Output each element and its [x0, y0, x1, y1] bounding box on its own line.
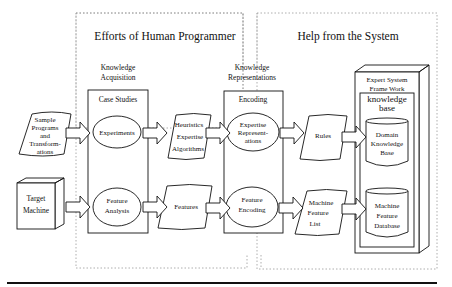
arrow-target-to-analysis: [66, 196, 90, 218]
machine-feature-list-document: Machine Feature List: [295, 190, 347, 236]
framework-label-l1: Expert System: [366, 76, 408, 84]
svg-text:Machine: Machine: [309, 199, 334, 207]
svg-text:Algorithms: Algorithms: [172, 145, 204, 153]
encoding-label: Encoding: [239, 95, 268, 104]
stage-representation-l2: Representations: [228, 73, 276, 82]
feature-analysis-process: Feature Analysis: [93, 188, 141, 226]
system-region-title: Help from the System: [297, 30, 398, 43]
human-region-title: Efforts of Human Programmer: [94, 30, 235, 43]
svg-text:Features: Features: [174, 203, 198, 211]
svg-text:Transform-: Transform-: [29, 140, 61, 148]
svg-text:ations: ations: [245, 137, 262, 145]
svg-text:Database: Database: [374, 222, 400, 230]
svg-text:Domain: Domain: [376, 131, 399, 139]
arrow-expertise-to-rules: [280, 122, 304, 144]
svg-text:Rules: Rules: [315, 132, 331, 140]
svg-text:Sample: Sample: [35, 116, 56, 124]
stage-acquisition-l2: Acquisition: [101, 73, 136, 82]
machine-feature-database: Machine Feature Database: [366, 188, 408, 237]
svg-text:Base: Base: [380, 149, 394, 157]
rules-document: Rules: [300, 115, 347, 161]
arrow-samples-to-experiments: [66, 122, 90, 144]
svg-text:Feature: Feature: [308, 209, 329, 217]
svg-text:Encoding: Encoding: [239, 206, 266, 214]
experiments-process: Experiments: [93, 116, 141, 148]
svg-text:Knowledge: Knowledge: [371, 140, 403, 148]
target-machine-input: Target Machine: [17, 178, 64, 229]
domain-kb-database: Domain Knowledge Base: [366, 118, 408, 166]
svg-text:Target: Target: [27, 194, 47, 203]
bottom-rule: [7, 282, 437, 284]
svg-text:Machine: Machine: [375, 202, 400, 210]
expertise-representations-process: Expertise Represent- ations: [227, 113, 279, 151]
svg-text:ations: ations: [37, 148, 54, 156]
svg-text:Analysis: Analysis: [105, 207, 130, 215]
svg-text:Expertise: Expertise: [240, 121, 266, 129]
svg-text:Feature: Feature: [242, 196, 263, 204]
stage-acquisition-l1: Knowledge: [101, 63, 136, 72]
framework-label-l2: Frame Work: [370, 85, 405, 93]
diagram-canvas: Efforts of Human Programmer Help from th…: [0, 0, 452, 287]
svg-text:Expertise: Expertise: [177, 133, 203, 141]
svg-text:and: and: [40, 132, 51, 140]
svg-text:Heuristics: Heuristics: [175, 121, 204, 129]
svg-text:Feature: Feature: [107, 197, 128, 205]
sample-programs-input: Sample Programs and Transform- ations: [19, 112, 71, 156]
svg-text:Experiments: Experiments: [99, 129, 135, 137]
kb-label-l2: base: [379, 103, 395, 113]
feature-encoding-process: Feature Encoding: [226, 187, 278, 227]
svg-text:Programs: Programs: [32, 124, 59, 132]
stage-representation-l1: Knowledge: [235, 63, 270, 72]
heuristics-document: Heuristics Expertise Algorithms: [168, 114, 211, 160]
svg-text:Represent-: Represent-: [238, 129, 269, 137]
case-studies-label: Case Studies: [99, 95, 138, 104]
svg-text:Feature: Feature: [377, 212, 398, 220]
svg-text:List: List: [310, 220, 321, 228]
svg-text:Machine: Machine: [23, 206, 50, 215]
